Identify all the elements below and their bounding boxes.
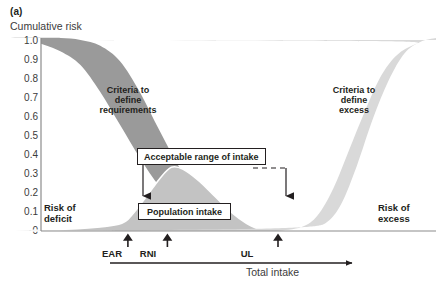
population-intake-callout: Population intake <box>138 203 231 220</box>
marker-arrow-ul <box>275 235 282 247</box>
requirements-band-label: Criteria to define requirements <box>86 85 170 115</box>
marker-arrow-ear <box>125 235 132 247</box>
excess-band-label: Criteria to define excess <box>318 85 390 115</box>
figure-panel: (a) Cumulative risk Total intake 1.0 0.9… <box>0 0 441 285</box>
marker-label-rni: RNI <box>129 248 167 259</box>
risk-of-deficit-label: Risk of deficit <box>44 203 76 225</box>
risk-of-excess-label: Risk of excess <box>378 203 410 225</box>
marker-arrow-rni <box>164 235 171 247</box>
population-intake-distribution <box>0 167 262 231</box>
marker-label-ear: EAR <box>93 248 131 259</box>
marker-label-ul: UL <box>228 248 266 259</box>
acceptable-range-callout: Acceptable range of intake <box>137 148 266 165</box>
plot-area <box>0 0 441 285</box>
reference-marker-arrows <box>125 235 282 247</box>
